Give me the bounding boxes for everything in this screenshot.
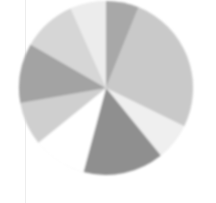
pie-chart-figure: Segment 1: 6%Segment 2: 26%Segment 3: 7%… bbox=[0, 0, 216, 203]
pie-chart-svg: Segment 1: 6%Segment 2: 26%Segment 3: 7%… bbox=[0, 0, 216, 203]
pie-slice-group: Segment 1: 6%Segment 2: 26%Segment 3: 7%… bbox=[19, 1, 193, 175]
